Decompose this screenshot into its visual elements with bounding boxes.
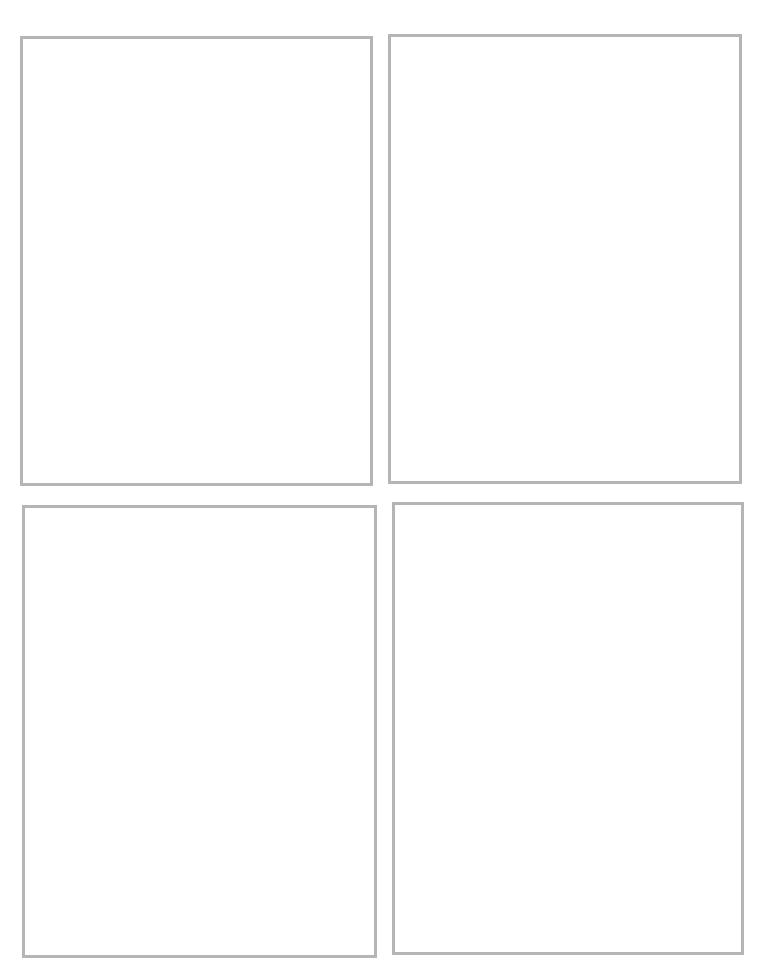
panel-bottom-left	[22, 505, 377, 958]
panel-bottom-right	[392, 502, 744, 955]
panel-top-right	[388, 34, 742, 484]
panel-top-left	[20, 36, 373, 486]
